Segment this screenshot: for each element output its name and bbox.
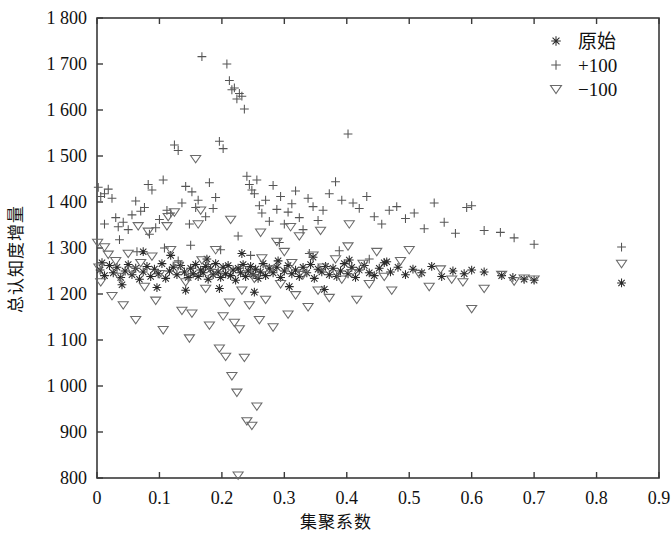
data-point [136,207,145,216]
data-point [467,266,476,275]
data-point [139,283,149,290]
data-point [224,299,234,306]
data-point [274,256,283,265]
data-point [430,199,439,208]
data-point [410,209,419,218]
data-point [304,194,313,203]
data-point [315,227,325,234]
y-axis-tick-label: 1 300 [47,238,88,258]
data-point [401,214,410,223]
data-point [496,228,505,237]
data-point [283,311,293,318]
data-point [252,176,261,185]
data-point [151,297,161,304]
data-point [617,279,626,288]
data-point [108,194,117,203]
data-point [111,213,120,222]
x-axis-tick-label: 0.3 [273,488,296,508]
data-point [215,284,224,293]
data-point [201,212,210,221]
data-point [246,251,255,260]
x-axis-tick-label: 0.9 [648,488,671,508]
data-point [204,322,214,329]
data-point [343,243,353,250]
data-point [284,208,293,217]
data-point [291,292,301,299]
y-axis-tick-label: 1 600 [47,100,88,120]
data-point [178,199,187,208]
data-point [435,266,445,273]
data-point [135,275,144,284]
data-point [237,287,247,294]
y-axis-tick-label: 1 800 [47,8,88,28]
data-point [173,270,182,279]
x-axis-tick-label: 0.1 [148,488,171,508]
data-point [222,60,231,69]
data-point [255,201,264,210]
data-point [162,223,172,230]
data-point [370,212,379,221]
data-point [480,268,489,277]
data-point [617,243,626,252]
data-point [123,250,133,257]
data-point [330,256,340,263]
data-point [153,283,162,292]
data-point [437,272,446,281]
data-point [124,225,133,234]
data-point [194,196,203,205]
data-point [146,272,155,281]
data-point [460,269,469,278]
data-point [261,196,270,205]
data-points-layer [93,52,627,479]
data-point [177,307,187,314]
data-point [340,259,349,268]
data-point [344,130,353,139]
data-point [401,270,410,279]
data-point [295,213,304,222]
x-axis-tick-label: 0.7 [523,488,546,508]
data-point [451,229,460,238]
data-point [216,273,225,282]
data-point [321,262,330,271]
data-point [420,224,429,233]
data-point [256,229,266,236]
data-point [170,141,179,150]
data-point [336,267,345,276]
data-point [131,197,140,206]
y-axis-tick-label: 1 500 [47,146,88,166]
data-point [201,285,211,292]
chart-legend: 原始+100−100 [550,31,617,100]
data-point [237,249,246,258]
data-point [424,283,434,290]
data-point [276,192,285,201]
data-point [616,260,626,267]
data-point [329,264,338,273]
data-point [133,223,143,230]
data-point [188,187,197,196]
data-point [244,302,254,309]
y-axis-tick-label: 1 000 [47,376,88,396]
data-point [365,255,374,264]
data-point [245,180,254,189]
data-point [325,189,334,198]
data-point [303,304,313,311]
data-point [221,353,231,360]
data-point [440,218,449,227]
data-point [231,276,240,285]
x-axis-tick-label: 0.2 [211,488,234,508]
data-point [100,220,109,229]
data-point [158,259,167,268]
data-point [227,373,237,380]
data-point [211,259,220,268]
data-point [458,279,468,286]
data-point [234,264,243,273]
data-point [196,207,206,214]
data-point [160,244,169,253]
data-point [247,186,256,195]
data-point [198,52,207,61]
y-axis-tick-label: 1 700 [47,54,88,74]
data-point [280,267,289,276]
legend-marker-triangle-down [550,85,561,93]
data-point [234,326,244,333]
data-point [105,261,114,270]
